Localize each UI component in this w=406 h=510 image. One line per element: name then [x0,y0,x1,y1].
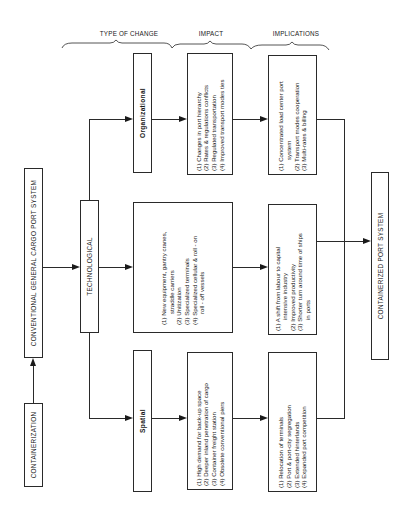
technological-label: TECHNOLOGICAL [86,237,93,296]
list-item-continuation: intensive industry [281,273,289,331]
list-item: (1) High demand for back-up space [195,390,203,486]
connector-bus-to-containerized [344,241,363,242]
tech-bus-vertical-lower [89,333,90,418]
arrow-up-icon [30,358,36,366]
list-item: (2) Rates & regulations conflicts [202,85,210,171]
connector-spatial-type-to-impact [152,418,179,419]
arrow-right-icon [72,264,80,270]
connector-to-spatial [89,418,125,419]
list-item-continuation: straddle carriers [168,270,176,325]
connector-spatial-impact-to-impl [233,418,260,419]
list-item: (2) Transport modes cooperation [293,83,301,171]
implications-bus-vertical [344,119,345,419]
connector-conventional-to-tech [43,267,73,268]
arrow-right-icon [260,116,268,122]
list-item: (3) Extended hinterlands [293,422,301,488]
list-item: (1) A shift from labour to capital [274,247,282,331]
connector-tech-impact-to-impl [233,267,260,268]
spatial-label: Spatial [139,409,146,433]
list-item: (3) Container freight station [210,412,218,486]
arrow-right-icon [125,415,133,421]
arrow-right-icon [260,415,268,421]
connector-tech-to-impact [99,267,125,268]
list-item-continuation: system [285,141,293,171]
list-item: (4) Specialized cellular & roll - on [191,236,199,325]
tech-bus-vertical [89,119,90,200]
connector-tech-impl-to-bus [317,241,344,242]
arrow-right-icon [125,116,133,122]
containerization-label: CONTAINERIZATION [30,412,37,479]
list-item: (2) Deeper inland penetration of cargo [202,383,210,486]
connector-spatial-impl-to-bus [317,418,344,419]
list-item-continuation: roll - off vessels [198,272,206,325]
organizational-impact-list: (1) Changes in port hierarchy (2) Rates … [187,53,233,175]
conventional-system-label: CONVENTIONAL GENERAL CARGO PORT SYSTEM [30,180,37,346]
connector-to-organizational [89,119,125,120]
arrow-right-icon [179,415,187,421]
list-item: (4) Expanded port competition [300,406,308,488]
list-item: (3) Multi-rates & billing [300,110,308,171]
connector-org-impl-to-bus [317,119,344,120]
technological-impact-list: (1) New equipment, gantry cranes, stradd… [133,202,233,333]
connector-org-type-to-impact [152,119,179,120]
spatial-impact-list: (1) High demand for back-up space (2) De… [187,352,233,490]
technological-implications-list: (1) A shift from labour to capital inten… [268,204,317,335]
containerized-system-label: CONTAINERIZED PORT SYSTEM [377,213,384,320]
connector-containerization-up [33,366,34,403]
list-item: (4) Improved transport modes ties [218,80,226,171]
list-item: (2) Unitization [175,287,183,325]
arrow-right-icon [260,264,268,270]
brace-implications [0,0,406,60]
list-item: (4) Obsolete conventional piers [218,402,226,486]
arrow-right-icon [363,238,371,244]
list-item: (1) Changes in port hierarchy [195,92,203,171]
list-item: (2) Port & port-city segregation [285,405,293,488]
arrow-right-icon [179,116,187,122]
spatial-implications-list: (1) Relocation of terminals (2) Port & p… [268,352,317,492]
list-item: (3) Shorter turn around time of ships [296,233,304,331]
list-item: (1) Concentrated load center port [277,81,285,171]
organizational-implications-list: (1) Concentrated load center port system… [268,55,317,175]
list-item: (1) New equipment, gantry cranes, [160,232,168,325]
organizational-label: Organizational [139,88,146,138]
arrow-right-icon [125,264,133,270]
list-item-continuation: in ports [304,300,312,331]
list-item: (3) Specialized terminals [183,258,191,325]
list-item: (1) Relocation of terminals [277,417,285,488]
list-item: (3) Regulated transportation [210,95,218,171]
list-item: (2) Improved productivity [289,264,297,331]
connector-org-impact-to-impl [233,119,260,120]
